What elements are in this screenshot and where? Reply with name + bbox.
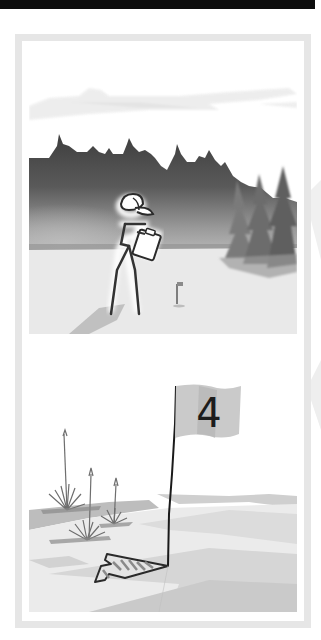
top-scene (29, 58, 297, 334)
next-page-edge-bottom (311, 360, 321, 430)
top-bar (0, 0, 315, 9)
bottom-scene: 4 (29, 334, 297, 612)
flag-number: 4 (196, 390, 221, 436)
top-scene-illustration (29, 58, 297, 334)
flag: 4 (175, 384, 241, 438)
illustration-frame: 4 (15, 34, 311, 628)
next-page-edge-top (311, 180, 321, 260)
bottom-scene-illustration: 4 (29, 334, 297, 612)
